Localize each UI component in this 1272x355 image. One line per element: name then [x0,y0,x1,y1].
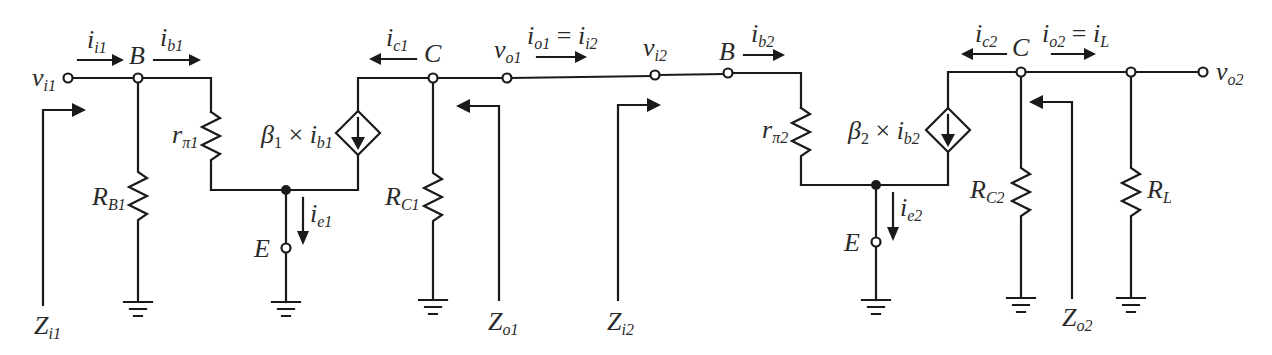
label-ii1: ii1 [87,25,107,56]
junction-e1 [281,185,291,195]
node-c1 [429,74,438,83]
resistor-rc1 [424,82,442,300]
ground-icon [124,302,152,316]
label-c2: C [1012,33,1030,62]
bracket-zi2-arrow [647,98,661,112]
wire-vi2-b2 [659,74,724,75]
label-vo2: vo2 [1216,57,1244,88]
label-vo1: vo1 [494,35,522,66]
label-rb1: RB1 [91,182,126,213]
wire-collector-1 [358,78,429,111]
resistor-rc2 [1012,76,1030,298]
arrow-ib2-head [773,49,785,61]
wire-emitter-2 [801,152,948,185]
label-source-2: β2 × ib2 [847,116,920,147]
label-io2: io2 = iL [1042,19,1109,50]
label-e1: E [253,234,270,263]
ground-icon [1117,298,1145,312]
label-ib2: ib2 [751,19,774,50]
circuit-diagram: vi1 ii1 B ib1 rπ1 RB1 β1 × ib1 ic1 C vo1… [0,0,1272,355]
label-rpi2: rπ2 [762,115,788,146]
resistor-rpi2 [792,108,810,185]
resistor-rl [1122,76,1140,298]
arrow-ic2-head [961,48,973,60]
label-b1: B [129,41,145,70]
node-vi2 [651,71,660,80]
bracket-zo1 [470,106,499,300]
ground-icon [272,302,300,316]
label-rpi1: rπ1 [172,120,198,151]
wire-base-1 [142,78,211,112]
junction-e2 [871,180,881,190]
label-io1: io1 = ii2 [527,21,598,52]
label-zi2: Zi2 [607,307,634,338]
ground-icon [419,300,447,314]
label-rc2: RC2 [969,175,1005,206]
label-b2: B [719,37,735,66]
wire-interstage-b [511,76,651,78]
bracket-zi2 [618,105,648,300]
bracket-zi1-arrow [72,103,86,117]
label-ib1: ib1 [160,23,183,54]
arrow-ic1-head [369,53,381,65]
label-e2: E [843,228,860,257]
arrow-ie1-head [297,231,309,245]
arrow-ib1-head [189,54,201,66]
terminal-vo2 [1199,68,1208,77]
node-e1 [282,244,291,253]
label-ie2: ie2 [900,193,922,224]
source-arrow-head-1 [351,137,365,150]
arrow-ie2-head [887,227,899,241]
source-arrow-head-2 [941,134,955,147]
arrow-ii1-head [112,54,124,66]
resistor-rpi1 [202,112,220,190]
label-c1: C [424,39,442,68]
stage-2: vi2 B ib2 rπ2 β2 × ib2 ic2 C io2 = iL vo… [607,19,1244,338]
label-rc1: RC1 [384,182,420,213]
terminal-vi1 [64,74,73,83]
node-b1 [134,74,143,83]
stage-1: vi1 ii1 B ib1 rπ1 RB1 β1 × ib1 ic1 C vo1… [32,21,651,342]
bracket-zo2-arrow [1029,95,1043,109]
node-e2 [872,238,881,247]
node-b2 [724,69,733,78]
bracket-zo2 [1043,102,1072,298]
label-rl: RL [1146,175,1172,206]
resistor-rb1 [129,82,147,302]
bracket-zi1 [43,110,74,305]
label-ie1: ie1 [310,199,332,230]
label-zo2: Zo2 [1062,303,1092,334]
wire-emitter-1 [211,155,358,190]
node-c2 [1017,68,1026,77]
label-ic2: ic2 [975,19,997,50]
ground-icon [862,300,890,314]
node-rl [1127,68,1136,77]
bracket-zo1-arrow [456,99,470,113]
node-vo1 [503,74,512,83]
label-zo1: Zo1 [488,307,518,338]
wire-collector-2 [948,72,1017,108]
wire-base-2 [732,73,801,108]
arrow-io2-head [1084,48,1096,60]
label-vi1: vi1 [32,63,56,94]
label-source-1: β1 × ib1 [260,120,333,151]
label-zi1: Zi1 [34,311,61,342]
arrow-io1-head [575,51,587,63]
ground-icon [1007,298,1035,312]
label-ic1: ic1 [386,23,408,54]
label-vi2: vi2 [643,33,667,64]
